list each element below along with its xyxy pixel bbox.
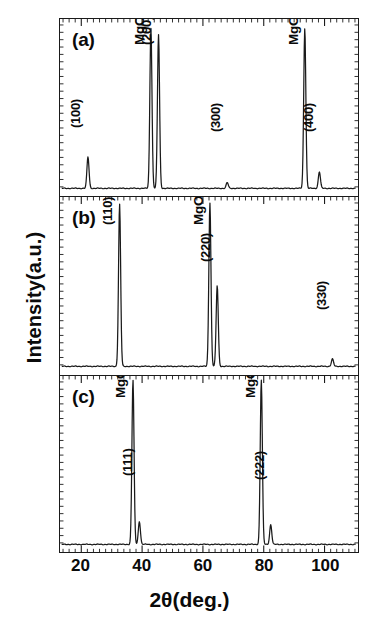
x-tick-label: 80 — [255, 556, 274, 576]
panel-a: (a) (100)MgO(200)(200)(300)MgO(400)(400) — [59, 18, 359, 196]
peak-label: MgO(220) — [191, 196, 206, 224]
xrd-trace — [62, 203, 356, 367]
peak-label: (220) — [198, 233, 213, 262]
tick-marks — [60, 376, 358, 552]
x-tick-label: 60 — [193, 556, 212, 576]
peak-label: (222) — [252, 451, 267, 480]
peak-label: (110) — [100, 197, 115, 225]
peak-label: MgO(400) — [286, 18, 301, 45]
x-axis-label: 2θ(deg.) — [0, 588, 379, 612]
panel-c-tag: (c) — [72, 386, 95, 408]
peak-label: (200) — [139, 18, 154, 45]
peak-label: (111) — [120, 449, 135, 476]
peak-label: (400) — [301, 103, 316, 132]
xrd-figure: Intensity(a.u.) (a) (100)MgO(200)(200)(3… — [0, 0, 379, 635]
x-axis-label-text: 2θ(deg.) — [149, 588, 229, 611]
xrd-trace — [62, 380, 356, 545]
x-tick-label: 40 — [132, 556, 151, 576]
peak-label: MgO(111) — [113, 375, 128, 398]
x-tick-label: 100 — [311, 556, 339, 576]
panel-stack: (a) (100)MgO(200)(200)(300)MgO(400)(400)… — [59, 18, 359, 553]
x-tick-label: 20 — [71, 556, 90, 576]
panel-b-tag: (b) — [72, 207, 96, 229]
panel-b: (b) (110)MgO(220)(220)(330) — [59, 196, 359, 374]
y-axis-label: Intensity(a.u.) — [23, 168, 46, 428]
x-axis-tick-labels: 20406080100 — [0, 556, 379, 582]
panel-a-tag: (a) — [72, 29, 95, 51]
peak-label: MgO(222) — [243, 375, 258, 398]
panel-c-plot — [60, 376, 358, 552]
peak-label: (100) — [68, 100, 83, 129]
peak-label: (330) — [314, 282, 329, 311]
panel-c: (c) MgO(111)(111)MgO(222)(222) — [59, 375, 359, 553]
peak-label: (300) — [208, 103, 223, 132]
